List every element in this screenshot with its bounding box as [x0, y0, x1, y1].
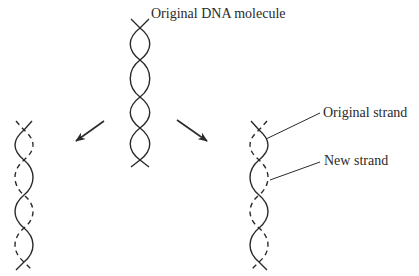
right-original-strand: [250, 121, 268, 270]
leader-new-strand: [270, 162, 320, 180]
parent-helix: [130, 19, 150, 167]
right-daughter-helix: [250, 121, 268, 270]
parent-strand-b: [130, 19, 150, 167]
left-original-strand: [15, 121, 33, 270]
dna-replication-diagram: [0, 0, 419, 276]
label-original-dna-molecule: Original DNA molecule: [151, 7, 286, 21]
label-new-strand: New strand: [324, 154, 388, 168]
label-original-strand: Original strand: [323, 106, 407, 120]
arrow-to-left-daughter: [76, 121, 104, 141]
arrow-to-right-daughter: [177, 120, 207, 141]
left-daughter-helix: [15, 121, 33, 270]
parent-strand-a: [130, 19, 150, 167]
leader-original-strand: [266, 113, 320, 139]
